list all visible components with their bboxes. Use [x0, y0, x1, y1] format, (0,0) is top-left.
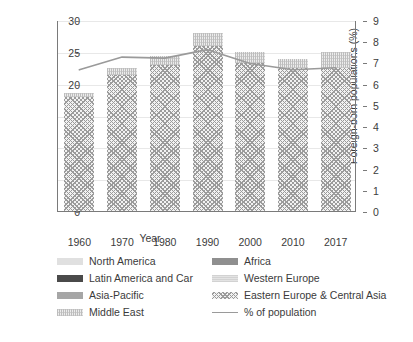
legend-color-swatch: [212, 292, 238, 299]
legend-item-label: Latin America and Car: [89, 273, 193, 284]
chart-figure: Foreign-born population (millions) Forei…: [0, 0, 413, 342]
legend-color-swatch: [57, 258, 83, 265]
y-axis-right-tickmark: [363, 63, 367, 64]
plot-frame: 051015202530 0123456789 1960197019801990…: [57, 21, 356, 212]
x-axis-tick-label: 1970: [110, 236, 133, 248]
y-axis-right-tick-label: 0: [373, 206, 379, 218]
line-path: [79, 50, 335, 70]
legend-item[interactable]: Middle East: [57, 307, 144, 318]
legend-color-swatch: [212, 275, 238, 282]
legend-item-label: Western Europe: [244, 273, 320, 284]
y-axis-right-tick-label: 9: [373, 15, 379, 27]
legend-item[interactable]: Africa: [212, 256, 271, 267]
legend-item-label: Eastern Europe & Central Asia: [244, 290, 386, 301]
legend-item[interactable]: North America: [57, 256, 156, 267]
legend-item[interactable]: % of population: [212, 307, 316, 318]
legend-item[interactable]: Eastern Europe & Central Asia: [212, 290, 386, 301]
y-axis-right-tickmark: [363, 212, 367, 213]
y-axis-right-tickmark: [363, 170, 367, 171]
legend-item-label: % of population: [244, 307, 316, 318]
x-axis-tick-label: 1990: [196, 236, 219, 248]
legend-item-label: Asia-Pacific: [89, 290, 144, 301]
y-axis-right-tickmark: [363, 106, 367, 107]
legend-color-swatch: [57, 292, 83, 299]
x-axis-tick-label: 2010: [281, 236, 304, 248]
y-axis-right-tickmark: [363, 42, 367, 43]
legend-item[interactable]: Western Europe: [212, 273, 320, 284]
y-axis-right-tickmark: [363, 127, 367, 128]
legend-item[interactable]: Asia-Pacific: [57, 290, 144, 301]
percent-of-population-line: [58, 21, 357, 212]
y-axis-right-tick-label: 1: [373, 185, 379, 197]
y-axis-right-tick-label: 4: [373, 121, 379, 133]
y-axis-right-tickmark: [363, 191, 367, 192]
y-axis-right-tick-label: 7: [373, 57, 379, 69]
legend-item[interactable]: Latin America and Car: [57, 273, 193, 284]
x-axis-tick-label: 2000: [239, 236, 262, 248]
x-axis-tick-label: 2017: [324, 236, 347, 248]
y-axis-left-tickmark: [76, 212, 80, 213]
y-axis-right-ticks: 0123456789: [363, 21, 397, 212]
legend-item-label: Middle East: [89, 307, 144, 318]
y-axis-right-tickmark: [363, 21, 367, 22]
y-axis-right-tickmark: [363, 85, 367, 86]
legend-color-swatch: [57, 309, 83, 316]
legend-color-swatch: [212, 258, 238, 265]
legend-color-swatch: [57, 275, 83, 282]
x-axis-tick-label: 1980: [153, 236, 176, 248]
legend-item-label: North America: [89, 256, 156, 267]
chart-legend: North AmericaLatin America and CarAsia-P…: [0, 250, 413, 342]
x-axis-tick-label: 1960: [68, 236, 91, 248]
chart-plot-area: Foreign-born population (millions) Forei…: [0, 0, 413, 250]
y-axis-right-tick-label: 8: [373, 36, 379, 48]
legend-item-label: Africa: [244, 256, 271, 267]
y-axis-right-tick-label: 3: [373, 142, 379, 154]
y-axis-right-tick-label: 2: [373, 164, 379, 176]
y-axis-right-tick-label: 6: [373, 79, 379, 91]
y-axis-right-tickmark: [363, 148, 367, 149]
legend-line-swatch: [212, 309, 238, 316]
y-axis-right-tick-label: 5: [373, 100, 379, 112]
